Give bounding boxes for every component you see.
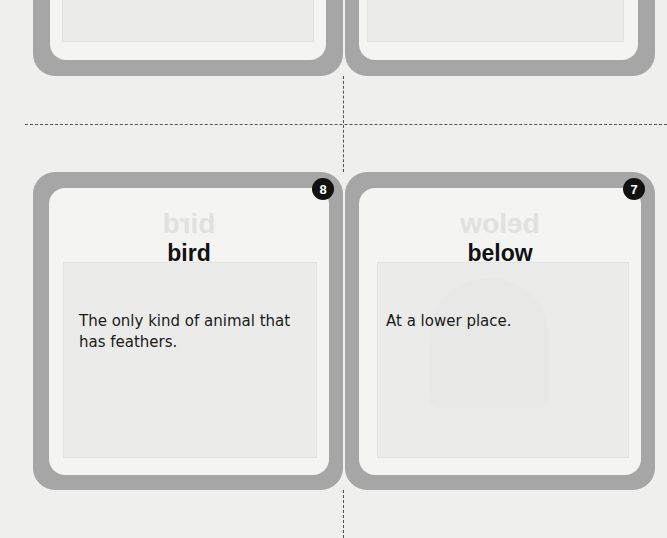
card-panel: bird bird The only kind of animal that h…	[49, 188, 329, 475]
ghost-arch-shape	[429, 278, 549, 408]
card-number-badge: 7	[623, 178, 645, 200]
mirrored-ghost-word: bird	[49, 208, 329, 240]
ghost-illustration	[63, 262, 317, 458]
vocab-word: below	[359, 240, 641, 267]
vocabulary-card-sheet: bird bird The only kind of animal that h…	[0, 0, 667, 538]
mirrored-ghost-word: below	[359, 208, 641, 240]
card-panel: below below At a lower place.	[359, 188, 641, 475]
vocab-card-below: below below At a lower place. 7	[345, 172, 655, 490]
top-right-card	[345, 0, 655, 76]
vocab-card-bird: bird bird The only kind of animal that h…	[33, 172, 343, 490]
vocab-definition: At a lower place.	[386, 311, 626, 332]
card-panel	[359, 0, 638, 60]
vertical-cut-line-bottom	[343, 490, 344, 538]
top-left-card	[33, 0, 343, 76]
ghost-illustration	[62, 0, 314, 42]
card-panel	[50, 0, 326, 60]
horizontal-cut-line	[25, 124, 667, 125]
vocab-word: bird	[49, 240, 329, 267]
vocab-definition: The only kind of animal that has feather…	[79, 311, 304, 353]
card-number-badge: 8	[312, 178, 334, 200]
ghost-illustration	[367, 0, 624, 42]
